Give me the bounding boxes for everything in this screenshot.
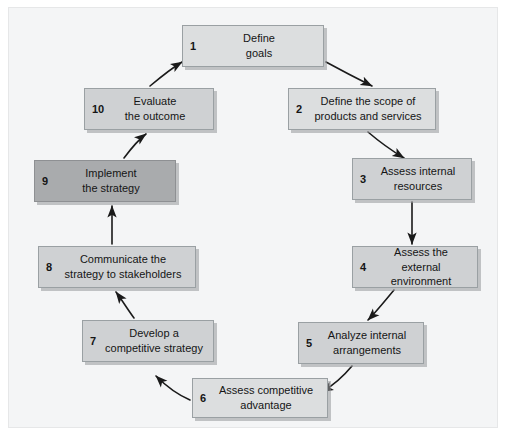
step-box-6[interactable]: 6Assess competitive advantage [192, 378, 328, 418]
step-box-8[interactable]: 8Communicate the strategy to stakeholder… [38, 246, 196, 288]
step-label: Communicate the strategy to stakeholders [39, 252, 195, 281]
step-label: Develop a competitive strategy [83, 326, 213, 355]
step-number: 2 [296, 104, 302, 115]
step-number: 6 [200, 393, 206, 404]
step-box-7[interactable]: 7Develop a competitive strategy [82, 320, 214, 362]
step-box-4[interactable]: 4Assess the external environment [352, 246, 478, 288]
step-number: 4 [360, 262, 366, 273]
step-box-1[interactable]: 1Define goals [182, 25, 324, 67]
step-label: Analyze internal arrangements [299, 328, 423, 357]
step-box-2[interactable]: 2Define the scope of products and servic… [288, 88, 436, 130]
diagram-canvas [8, 7, 498, 428]
step-box-9[interactable]: 9Implement the strategy [34, 160, 176, 202]
step-label: Assess the external environment [353, 245, 477, 289]
step-label: Define the scope of products and service… [289, 94, 435, 123]
step-box-10[interactable]: 10Evaluate the outcome [84, 88, 214, 130]
step-label: Assess competitive advantage [193, 383, 327, 412]
step-number: 1 [190, 41, 196, 52]
step-label: Implement the strategy [35, 166, 175, 195]
step-label: Define goals [183, 31, 323, 60]
step-box-3[interactable]: 3Assess internal resources [352, 158, 472, 200]
step-number: 10 [92, 104, 104, 115]
step-number: 9 [42, 176, 48, 187]
diagram-page: 1Define goals2Define the scope of produc… [0, 0, 506, 443]
step-box-5[interactable]: 5Analyze internal arrangements [298, 322, 424, 364]
step-number: 3 [360, 174, 366, 185]
step-label: Assess internal resources [353, 164, 471, 193]
step-number: 8 [46, 262, 52, 273]
step-number: 7 [90, 336, 96, 347]
step-number: 5 [306, 338, 312, 349]
